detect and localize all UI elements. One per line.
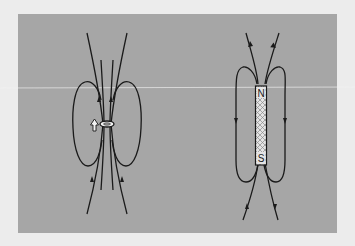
- left-arrowheads: [90, 96, 124, 182]
- current-loop-ring-inner: [104, 123, 111, 125]
- arrowhead-icon: [120, 176, 124, 182]
- scratch-line: [0, 87, 355, 88]
- field-line-top-right: [265, 33, 279, 84]
- arrowhead-icon: [283, 118, 287, 124]
- arrowhead-icon: [90, 176, 94, 182]
- field-loop-left: [236, 67, 258, 182]
- up-arrow-icon: [91, 119, 99, 131]
- arrowhead-icon: [273, 204, 277, 210]
- field-line-bottom-right: [265, 163, 278, 220]
- south-pole-label: S: [258, 153, 265, 164]
- field-line-top-left: [246, 33, 258, 84]
- magnetic-field-diagram: N S: [0, 0, 355, 246]
- field-loop-right: [112, 82, 141, 166]
- arrowhead-icon: [109, 96, 113, 102]
- north-pole-label: N: [257, 88, 264, 99]
- arrowhead-icon: [234, 118, 238, 124]
- field-loop-right: [264, 67, 285, 182]
